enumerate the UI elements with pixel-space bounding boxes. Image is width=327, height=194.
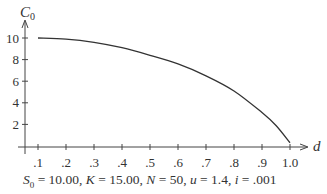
y-axis-label: C0 — [20, 4, 35, 22]
i-value: = .001 — [238, 172, 276, 187]
tick-labels: .1.2.3.4.5.6.7.8.91.0246810 — [6, 31, 298, 171]
x-tick-label: .3 — [89, 155, 99, 170]
axes — [18, 20, 308, 154]
x-tick-label: .9 — [257, 155, 267, 170]
x-tick-label: .1 — [33, 155, 43, 170]
x-tick-label: .2 — [61, 155, 71, 170]
n-symbol: N — [146, 172, 155, 187]
c0-curve — [38, 38, 290, 143]
x-tick-label: .6 — [173, 155, 183, 170]
x-tick-label: .4 — [117, 155, 127, 170]
y-tick-label: 8 — [13, 52, 20, 67]
x-tick-label: .5 — [145, 155, 155, 170]
x-tick-label: .8 — [229, 155, 239, 170]
k-value: = 15.00, — [95, 172, 147, 187]
s0-symbol: S — [23, 172, 30, 187]
x-axis-label: d — [313, 138, 321, 154]
y-tick-label: 6 — [13, 74, 20, 89]
parameters-caption: S0 = 10.00, K = 15.00, N = 50, u = 1.4, … — [0, 172, 327, 190]
y-tick-label: 4 — [13, 95, 20, 110]
x-tick-label: .7 — [201, 155, 211, 170]
line-chart: .1.2.3.4.5.6.7.8.91.0246810 C0 d — [0, 0, 327, 172]
x-tick-label: 1.0 — [282, 155, 298, 170]
tick-marks — [22, 38, 290, 150]
s0-value: = 10.00, — [34, 172, 86, 187]
u-symbol: u — [190, 172, 197, 187]
u-value: = 1.4, — [197, 172, 235, 187]
y-tick-label: 10 — [6, 31, 19, 46]
k-symbol: K — [86, 172, 95, 187]
n-value: = 50, — [155, 172, 190, 187]
y-tick-label: 2 — [13, 117, 20, 132]
